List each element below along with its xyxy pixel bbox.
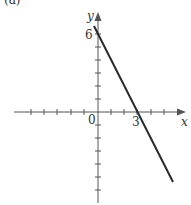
- coordinate-plane: y x 6 0 3: [0, 0, 191, 205]
- origin-label: 0: [88, 113, 96, 127]
- y-intercept-label: 6: [85, 28, 93, 42]
- x-axis-label: x: [181, 115, 188, 129]
- y-axis-arrow-icon: [95, 12, 102, 21]
- x-intercept-label: 3: [132, 115, 140, 129]
- graph-line: [94, 26, 173, 182]
- y-axis-label: y: [86, 9, 94, 23]
